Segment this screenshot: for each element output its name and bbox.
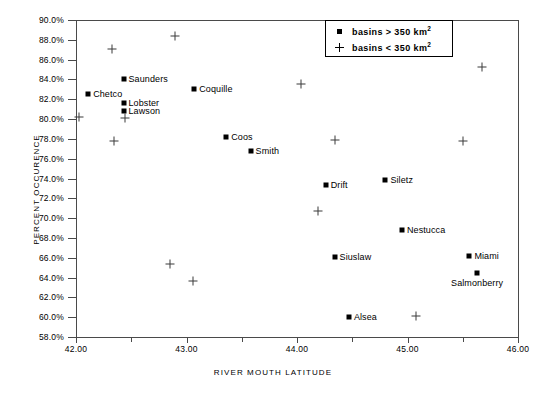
data-point-unlabeled: [171, 31, 180, 40]
x-tick-label: 46.00: [507, 344, 529, 354]
x-tick-label: 42.00: [65, 344, 87, 354]
data-point-siletz: [383, 178, 388, 183]
data-point-label-lawson: Lawson: [129, 106, 161, 116]
y-tick-mark: [68, 198, 76, 199]
data-point-unlabeled: [458, 136, 467, 145]
data-point-unlabeled: [313, 207, 322, 216]
data-point-alsea: [346, 315, 351, 320]
y-tick-label: 84.0%: [4, 74, 64, 84]
data-point-label-saunders: Saunders: [129, 74, 168, 84]
x-tick-label: 45.00: [396, 344, 418, 354]
y-tick-mark: [68, 218, 76, 219]
y-tick-mark: [68, 139, 76, 140]
legend-item-small-basins: basins < 350 km2: [326, 39, 454, 55]
data-point-coos: [224, 134, 229, 139]
y-tick-mark: [68, 278, 76, 279]
y-tick-label: 62.0%: [4, 292, 64, 302]
y-tick-mark: [68, 317, 76, 318]
data-point-unlabeled: [477, 62, 486, 71]
square-marker-icon: [326, 25, 352, 37]
scatter-chart: 58.0%60.0%62.0%64.0%66.0%68.0%70.0%72.0%…: [0, 0, 546, 395]
data-point-label-miami: Miami: [474, 251, 499, 261]
data-point-unlabeled: [109, 136, 118, 145]
data-point-nestucca: [399, 228, 404, 233]
data-point-label-siletz: Siletz: [390, 175, 413, 185]
data-point-unlabeled: [189, 276, 198, 285]
x-tick-label: 44.00: [286, 344, 308, 354]
data-point-unlabeled: [165, 259, 174, 268]
data-point-label-alsea: Alsea: [354, 312, 377, 322]
x-tick-mark: [187, 337, 188, 343]
x-tick-mark-minor: [352, 337, 353, 342]
legend-item-large-basins: basins > 350 km2: [326, 23, 454, 39]
data-point-unlabeled: [108, 44, 117, 53]
y-tick-mark: [68, 60, 76, 61]
y-tick-label: 88.0%: [4, 35, 64, 45]
plus-marker-icon: [326, 41, 352, 53]
y-axis-title: PERCENT OCCURENCE: [32, 110, 41, 270]
y-tick-mark: [68, 297, 76, 298]
data-point-label-chetco: Chetco: [93, 89, 122, 99]
data-point-drift: [323, 183, 328, 188]
y-tick-mark: [68, 179, 76, 180]
y-tick-label: 64.0%: [4, 273, 64, 283]
y-tick-mark: [68, 20, 76, 21]
data-point-unlabeled: [75, 113, 84, 122]
y-tick-label: 58.0%: [4, 332, 64, 342]
data-point-siuslaw: [332, 254, 337, 259]
data-point-unlabeled: [412, 312, 421, 321]
plot-frame-right: [518, 20, 519, 338]
x-tick-mark: [518, 337, 519, 343]
data-point-smith: [248, 148, 253, 153]
y-tick-mark: [68, 40, 76, 41]
legend-label-small-basins: basins < 350 km2: [352, 41, 431, 53]
data-point-label-smith: Smith: [256, 146, 280, 156]
data-point-lobster: [121, 101, 126, 106]
data-point-unlabeled: [330, 135, 339, 144]
data-point-label-coos: Coos: [231, 132, 252, 142]
data-point-label-coquille: Coquille: [199, 84, 232, 94]
y-tick-mark: [68, 99, 76, 100]
y-tick-mark: [68, 337, 76, 338]
x-axis-title: RIVER MOUTH LATITUDE: [0, 368, 546, 377]
y-tick-mark: [68, 258, 76, 259]
data-point-miami: [467, 253, 472, 258]
y-tick-label: 82.0%: [4, 94, 64, 104]
x-tick-mark: [76, 337, 77, 343]
data-point-unlabeled: [297, 80, 306, 89]
data-point-label-salmonberry: Salmonberry: [451, 278, 503, 288]
data-point-saunders: [121, 77, 126, 82]
data-point-salmonberry: [475, 270, 480, 275]
legend-label-large-basins: basins > 350 km2: [352, 25, 431, 37]
y-tick-label: 60.0%: [4, 312, 64, 322]
x-tick-label: 43.00: [175, 344, 197, 354]
x-tick-mark: [297, 337, 298, 343]
y-tick-mark: [68, 238, 76, 239]
y-tick-mark: [68, 79, 76, 80]
x-tick-mark-minor: [463, 337, 464, 342]
data-point-label-drift: Drift: [331, 180, 348, 190]
y-tick-label: 86.0%: [4, 55, 64, 65]
data-point-coquille: [192, 87, 197, 92]
y-axis-line: [76, 20, 77, 338]
y-tick-mark: [68, 159, 76, 160]
data-point-label-nestucca: Nestucca: [407, 225, 445, 235]
x-tick-mark-minor: [242, 337, 243, 342]
data-point-label-siuslaw: Siuslaw: [340, 252, 372, 262]
y-tick-label: 90.0%: [4, 15, 64, 25]
data-point-unlabeled: [120, 114, 129, 123]
x-tick-mark-minor: [131, 337, 132, 342]
x-tick-mark: [408, 337, 409, 343]
legend: basins > 350 km2 basins < 350 km2: [325, 20, 453, 57]
data-point-chetco: [86, 92, 91, 97]
